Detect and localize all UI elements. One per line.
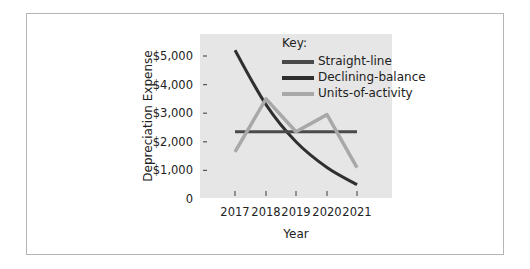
y-tick-label: $4,000 [153, 78, 193, 92]
y-tick-label: $5,000 [153, 49, 193, 63]
legend-swatch [282, 76, 314, 80]
y-axis: 0$1,000$2,000$3,000$4,000$5,000 [153, 49, 207, 206]
y-tick-label: 0 [186, 192, 193, 206]
legend-title: Key: [282, 36, 307, 50]
y-tick-label: $3,000 [153, 106, 193, 120]
x-tick-label: 2017 [220, 205, 249, 219]
legend-swatch [282, 92, 314, 96]
legend-label: Straight-line [318, 54, 392, 68]
y-axis-title: Depreciation Expense [141, 50, 155, 181]
x-axis-title: Year [282, 227, 308, 241]
x-tick-label: 2020 [312, 205, 341, 219]
x-tick-label: 2021 [342, 205, 371, 219]
legend-swatch [282, 60, 314, 64]
y-tick-label: $1,000 [153, 163, 193, 177]
legend-label: Declining-balance [318, 70, 426, 84]
x-tick-label: 2018 [251, 205, 280, 219]
x-tick-label: 2019 [281, 205, 310, 219]
y-tick-label: $2,000 [153, 135, 193, 149]
depreciation-chart: 0$1,000$2,000$3,000$4,000$5,000 20172018… [0, 0, 530, 269]
legend-label: Units-of-activity [318, 86, 413, 100]
